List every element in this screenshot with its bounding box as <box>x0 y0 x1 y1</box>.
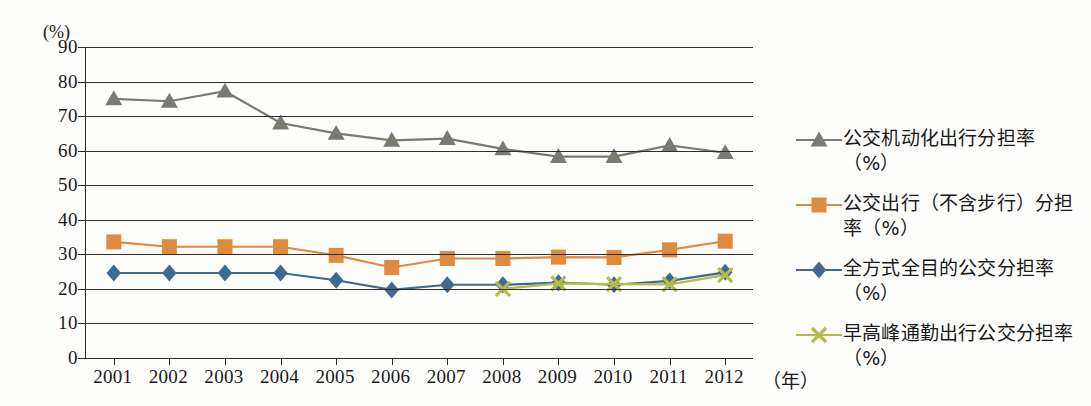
legend-item[interactable]: 早高峰通勤出行公交分担率（%） <box>795 321 1087 371</box>
y-axis-tick-label: 50 <box>58 174 78 196</box>
y-axis-tick-mark <box>78 47 85 48</box>
data-point-marker <box>384 260 399 275</box>
x-axis-tick-label: 2001 <box>93 366 132 388</box>
x-axis-tick-mark <box>336 358 337 365</box>
y-axis-tick-mark <box>78 116 85 117</box>
y-axis-tick-label: 0 <box>68 347 78 369</box>
y-axis-tick-label: 90 <box>58 36 78 58</box>
x-axis-tick-label: 2004 <box>260 366 299 388</box>
y-axis-tick-label: 30 <box>58 243 78 265</box>
x-axis-tick-label: 2010 <box>593 366 632 388</box>
x-axis-tick-mark <box>392 358 393 365</box>
x-axis-tick-mark <box>169 358 170 365</box>
x-axis-tick-mark <box>225 358 226 365</box>
x-axis-tick-label: 2002 <box>149 366 188 388</box>
data-point-marker <box>812 198 827 213</box>
series-3 <box>107 264 733 299</box>
data-point-marker <box>607 250 622 265</box>
x-axis-tick-mark <box>725 358 726 365</box>
y-axis-tick-label: 70 <box>58 105 78 127</box>
y-axis-tick-label: 10 <box>58 312 78 334</box>
data-point-marker <box>162 239 177 254</box>
series-line <box>114 91 725 156</box>
x-axis-tick-label: 2012 <box>705 366 744 388</box>
x-axis-tick-mark <box>670 358 671 365</box>
data-point-marker <box>439 130 456 145</box>
data-point-marker <box>216 83 233 98</box>
x-axis-tick-label: 2011 <box>649 366 688 388</box>
gridline <box>86 82 753 83</box>
legend-label: 公交机动化出行分担率（%） <box>843 126 1079 176</box>
x-axis-tick-label: 2007 <box>427 366 466 388</box>
y-axis-tick-label: 20 <box>58 277 78 299</box>
legend-label: 全方式全目的公交分担率（%） <box>843 256 1079 306</box>
gridline <box>86 151 753 152</box>
gridline <box>86 220 753 221</box>
data-point-marker <box>329 272 343 289</box>
legend-marker-triangle-icon <box>795 129 843 151</box>
data-point-marker <box>384 281 398 298</box>
y-axis-tick-mark <box>78 185 85 186</box>
legend-item[interactable]: 公交机动化出行分担率（%） <box>795 126 1087 176</box>
gridline <box>86 47 753 48</box>
data-point-marker <box>718 234 733 249</box>
legend-label: 早高峰通勤出行公交分担率（%） <box>843 321 1079 371</box>
x-axis-tick-mark <box>614 358 615 365</box>
x-axis-tick-mark <box>558 358 559 365</box>
x-axis-tick-label: 2003 <box>204 366 243 388</box>
y-axis-tick-mark <box>78 289 85 290</box>
x-axis-tick-mark <box>281 358 282 365</box>
x-axis-tick-label: 2006 <box>371 366 410 388</box>
chart-figure: (%) 0102030405060708090 （年） 公交机动化出行分担率（%… <box>0 0 1091 406</box>
x-axis-tick-mark <box>447 358 448 365</box>
y-axis-tick-label: 60 <box>58 139 78 161</box>
series-layer <box>86 47 753 358</box>
legend-item[interactable]: 公交出行（不含步行）分担率（%） <box>795 191 1087 241</box>
series-line <box>114 272 725 290</box>
y-axis-tick-mark <box>78 82 85 83</box>
data-point-marker <box>105 90 122 105</box>
chart-legend: 公交机动化出行分担率（%）公交出行（不含步行）分担率（%）全方式全目的公交分担率… <box>795 126 1087 386</box>
x-axis-tick-mark <box>503 358 504 365</box>
gridline <box>86 254 753 255</box>
data-point-marker <box>162 264 176 281</box>
gridline <box>86 289 753 290</box>
y-axis-tick-labels: 0102030405060708090 <box>34 47 78 358</box>
data-point-marker <box>217 239 232 254</box>
data-point-marker <box>273 239 288 254</box>
gridline <box>86 323 753 324</box>
legend-item[interactable]: 全方式全目的公交分担率（%） <box>795 256 1087 306</box>
data-point-marker <box>107 264 121 281</box>
legend-label: 公交出行（不含步行）分担率（%） <box>843 191 1079 241</box>
y-axis-tick-mark <box>78 323 85 324</box>
x-axis-tick-label: 2005 <box>316 366 355 388</box>
legend-marker-diamond-icon <box>795 259 843 281</box>
data-point-marker <box>812 262 826 279</box>
y-axis-tick-mark <box>78 254 85 255</box>
data-point-marker <box>551 250 566 265</box>
data-point-marker <box>440 276 454 293</box>
data-point-marker <box>273 264 287 281</box>
gridline <box>86 116 753 117</box>
y-axis-tick-mark <box>78 220 85 221</box>
y-axis-tick-mark <box>78 151 85 152</box>
x-axis-tick-mark <box>114 358 115 365</box>
data-point-marker <box>329 248 344 263</box>
x-axis-tick-label: 2009 <box>538 366 577 388</box>
legend-marker-square-icon <box>795 194 843 216</box>
plot-area <box>85 47 753 359</box>
legend-marker-cross-icon <box>795 324 843 346</box>
x-axis-tick-label: 2008 <box>482 366 521 388</box>
gridline <box>86 185 753 186</box>
data-point-marker <box>661 137 678 152</box>
data-point-marker <box>106 234 121 249</box>
y-axis-tick-mark <box>78 358 85 359</box>
data-point-marker <box>495 251 510 266</box>
y-axis-tick-label: 40 <box>58 208 78 230</box>
data-point-marker <box>218 264 232 281</box>
y-axis-tick-label: 80 <box>58 70 78 92</box>
data-point-marker <box>440 251 455 266</box>
